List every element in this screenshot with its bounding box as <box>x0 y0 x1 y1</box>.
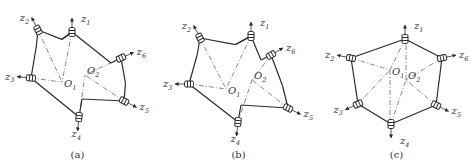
center-label-o1: O1 <box>228 85 240 99</box>
panel-b: z1z2z3z4z5z6O1O2(b) <box>162 17 313 160</box>
six-sensor-configuration-diagram: z1z2z3z4z5z6O1O2(a)z1z2z3z4z5z6O1O2(b)z1… <box>0 0 471 167</box>
accelerometer-sensor-icon <box>116 53 127 62</box>
dash-dot-line <box>238 80 252 122</box>
frame-edge <box>121 58 126 84</box>
sensor-label-z5: z5 <box>139 101 149 115</box>
sensor-label-z4: z4 <box>230 133 240 147</box>
sensor-label-z3: z3 <box>4 71 14 85</box>
sensor-label-z2: z2 <box>19 12 29 26</box>
sensor-label-z5: z5 <box>451 105 461 119</box>
frame-edge <box>358 104 391 124</box>
sensor-label-z6: z6 <box>285 42 295 56</box>
panel-caption: (a) <box>71 149 85 160</box>
accelerometer-sensor-icon <box>248 32 254 41</box>
accelerometer-sensor-icon <box>402 35 408 44</box>
accelerometer-sensor-icon <box>76 112 83 122</box>
accelerometer-sensor-icon <box>26 75 36 82</box>
dash-dot-line <box>391 80 406 124</box>
dash-dot-line <box>351 58 390 70</box>
accelerometer-sensor-icon <box>437 54 447 62</box>
accelerometer-sensor-icon <box>195 33 204 44</box>
sensor-label-z1: z1 <box>413 20 423 34</box>
sensor-label-z4: z4 <box>399 135 409 149</box>
frame-edge <box>391 105 436 124</box>
accelerometer-sensor-icon <box>69 28 75 37</box>
accelerometer-sensor-icon <box>33 25 42 36</box>
accelerometer-sensor-icon <box>353 99 364 108</box>
panel-c: z1z2z3z4z5z6O1O2(c) <box>324 20 468 160</box>
frame-edge <box>351 58 358 104</box>
panel-a: z1z2z3z4z5z6O1O2(a) <box>4 12 149 160</box>
accelerometer-sensor-icon <box>388 120 394 129</box>
frame-edge <box>200 38 236 45</box>
sensor-label-z3: z3 <box>332 104 342 118</box>
center-label-o2: O2 <box>254 70 266 84</box>
frame-edge <box>72 32 111 63</box>
frame-edge <box>405 39 442 58</box>
center-label-o1: O1 <box>392 66 404 80</box>
sensor-label-z2: z2 <box>181 20 191 34</box>
sensor-label-z4: z4 <box>71 128 81 142</box>
dash-dot-line <box>358 70 390 104</box>
accelerometer-sensor-icon <box>266 50 277 60</box>
dash-dot-line <box>85 75 124 101</box>
frame-edge <box>189 55 197 85</box>
center-label-o2: O2 <box>87 65 99 79</box>
sensor-label-z3: z3 <box>162 78 172 92</box>
panel-caption: (b) <box>231 149 245 160</box>
accelerometer-sensor-icon <box>431 100 442 109</box>
dash-dot-line <box>62 32 72 82</box>
frame-edge <box>271 55 283 86</box>
frame-edge <box>241 105 288 108</box>
dash-dot-line <box>406 80 436 105</box>
accelerometer-sensor-icon <box>346 54 356 62</box>
sensor-label-z5: z5 <box>303 108 313 122</box>
dash-dot-line <box>200 38 226 89</box>
sensor-label-z6: z6 <box>458 49 468 63</box>
sensor-label-z2: z2 <box>324 49 334 63</box>
frame-edge <box>31 47 36 78</box>
sensor-label-z1: z1 <box>259 17 269 31</box>
frame-edge <box>436 58 442 105</box>
frame-edge <box>351 39 405 58</box>
frame-edge <box>82 99 124 101</box>
accelerometer-sensor-icon <box>185 81 194 87</box>
panel-caption: (c) <box>390 149 404 160</box>
accelerometer-sensor-icon <box>283 103 294 112</box>
center-label-o1: O1 <box>64 78 76 92</box>
accelerometer-sensor-icon <box>119 96 130 105</box>
sensor-label-z6: z6 <box>136 46 146 60</box>
sensor-label-z1: z1 <box>80 13 90 27</box>
accelerometer-sensor-icon <box>235 117 242 127</box>
